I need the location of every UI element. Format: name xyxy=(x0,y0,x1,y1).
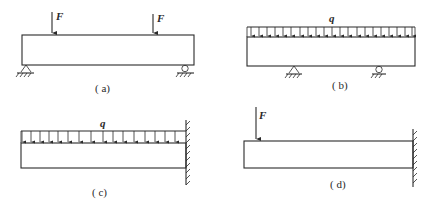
beam-b xyxy=(247,37,415,66)
fixed-wall-icon xyxy=(186,120,190,185)
panel-a: F F ( a) xyxy=(16,10,194,95)
caption-c: ( c) xyxy=(92,186,107,199)
force-label-d: F xyxy=(258,109,267,121)
pin-support-icon xyxy=(285,66,302,78)
roller-support-icon xyxy=(176,65,194,77)
beam-d xyxy=(244,141,413,168)
panel-b: q ( b) xyxy=(247,12,415,92)
caption-d: ( d) xyxy=(330,178,346,191)
distributed-load-icon xyxy=(247,27,415,37)
distributed-load-icon xyxy=(21,131,186,143)
beam-a xyxy=(22,35,194,65)
caption-a: ( a) xyxy=(95,82,110,95)
force-label-1: F xyxy=(55,10,64,22)
force-label-2: F xyxy=(156,12,165,24)
q-label-c: q xyxy=(100,117,106,129)
roller-support-icon xyxy=(371,66,386,78)
panel-d: F ( d) xyxy=(244,107,417,191)
beam-c xyxy=(21,143,186,168)
panel-c: q ( c) xyxy=(21,117,190,199)
q-label-b: q xyxy=(329,12,335,24)
pin-support-icon xyxy=(16,65,34,77)
caption-b: ( b) xyxy=(332,79,348,92)
fixed-wall-icon xyxy=(413,129,417,187)
